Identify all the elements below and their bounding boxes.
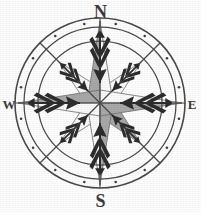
compass-rose-graphic — [0, 0, 201, 212]
ring-dot — [83, 181, 86, 184]
ring-dot — [20, 86, 23, 89]
ring-dot — [54, 169, 57, 172]
cardinal-label-north: N — [0, 3, 201, 21]
ring-dot — [114, 181, 117, 184]
ring-dot — [143, 35, 146, 38]
compass-arrow-northeast — [106, 58, 144, 96]
ring-dot — [166, 146, 169, 149]
ring-dot — [178, 117, 181, 120]
ring-dot — [143, 169, 146, 172]
cardinal-label-east: E — [184, 98, 200, 111]
cardinal-label-south: S — [0, 192, 201, 210]
ring-dot — [166, 57, 169, 60]
ring-dot — [178, 86, 181, 89]
compass-arrow-southeast — [106, 109, 144, 147]
ring-dot — [114, 23, 117, 26]
ring-dot — [83, 23, 86, 26]
compass-rose-image: N S W E — [0, 0, 201, 212]
ring-dot — [54, 35, 57, 38]
ring-dot — [20, 117, 23, 120]
compass-arrow-southwest — [55, 109, 93, 147]
compass-arrow-northwest — [55, 58, 93, 96]
cardinal-label-west: W — [1, 98, 17, 111]
ring-dot — [32, 146, 35, 149]
ring-dot — [32, 57, 35, 60]
